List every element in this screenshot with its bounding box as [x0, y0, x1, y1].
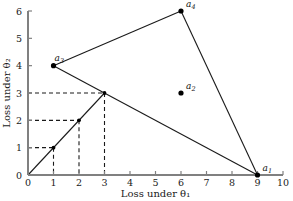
x-tick-label: 1 — [50, 177, 56, 188]
x-tick-label: 6 — [178, 177, 184, 188]
point-a2 — [178, 90, 183, 95]
x-tick-label: 8 — [229, 177, 235, 188]
x-tick-label: 3 — [101, 177, 107, 188]
chart-canvas: 0123456789100123456 a1a2a3a4 Loss under … — [0, 0, 293, 201]
y-tick-label: 4 — [16, 60, 22, 71]
x-tick-label: 5 — [152, 177, 158, 188]
point-a1 — [255, 172, 260, 177]
marked-point — [77, 118, 81, 122]
x-axis-title: Loss under θ₁ — [121, 188, 190, 199]
x-tick-label: 10 — [277, 177, 289, 188]
x-tick-label: 4 — [127, 177, 133, 188]
x-tick-label: 2 — [76, 177, 82, 188]
y-tick-label: 2 — [16, 115, 22, 126]
point-a3 — [51, 63, 56, 68]
point-a4 — [178, 8, 183, 13]
y-tick-label: 6 — [16, 6, 22, 17]
y-tick-label: 3 — [16, 88, 22, 99]
y-tick-label: 0 — [16, 170, 22, 181]
x-tick-label: 0 — [25, 177, 31, 188]
y-tick-label: 5 — [16, 33, 22, 44]
loss-plot-figure: 0123456789100123456 a1a2a3a4 Loss under … — [0, 0, 293, 201]
marked-point — [52, 146, 56, 150]
y-axis-title: Loss under θ₂ — [1, 58, 12, 127]
y-tick-label: 1 — [16, 142, 22, 153]
x-tick-label: 7 — [203, 177, 209, 188]
marked-point — [103, 91, 107, 95]
x-tick-label: 9 — [254, 177, 260, 188]
